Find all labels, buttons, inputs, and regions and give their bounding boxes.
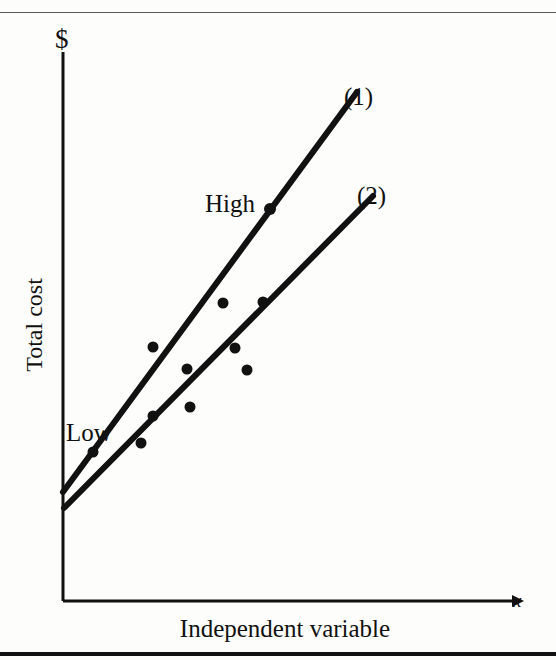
- low-point-label: Low: [66, 420, 112, 445]
- chart-plot-area: [0, 0, 556, 660]
- x-axis-variable-label: x: [513, 591, 521, 610]
- data-point: [182, 364, 193, 375]
- data-point-high: [264, 203, 276, 215]
- y-axis-title: Total cost: [22, 278, 46, 372]
- data-point: [148, 342, 159, 353]
- series-2-label: (2): [357, 183, 386, 208]
- data-point: [185, 402, 196, 413]
- data-point: [230, 343, 241, 354]
- data-point: [242, 365, 253, 376]
- series-1-label: (1): [344, 84, 373, 109]
- data-point: [136, 438, 147, 449]
- data-point-low: [88, 447, 99, 458]
- data-point: [218, 298, 229, 309]
- bottom-rule-divider: [0, 652, 556, 656]
- x-axis-title: Independent variable: [180, 616, 390, 641]
- figure-container: $ Total cost Independent variable x (1) …: [0, 0, 556, 660]
- high-point-label: High: [205, 191, 255, 216]
- data-point: [258, 297, 269, 308]
- y-axis-unit-label: $: [55, 26, 69, 53]
- series-2-line: [64, 196, 373, 508]
- data-point: [148, 411, 159, 422]
